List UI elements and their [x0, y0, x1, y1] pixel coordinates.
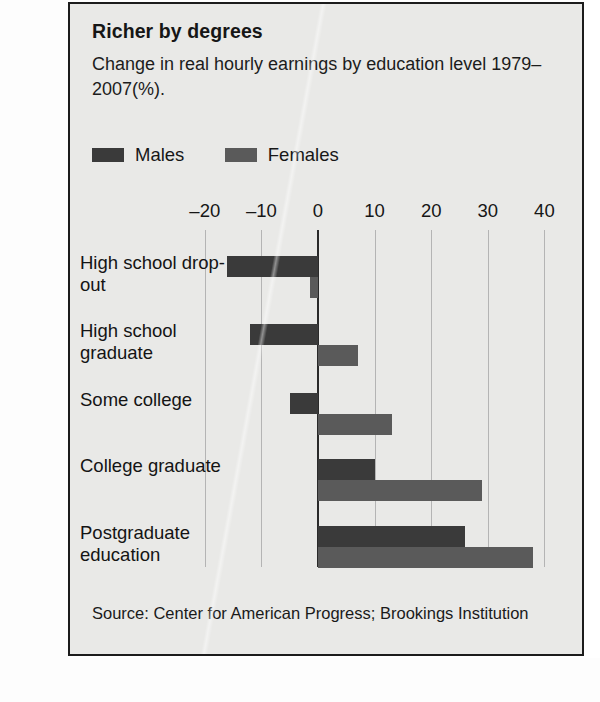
legend-swatch-males	[92, 148, 124, 162]
x-tick-label: 10	[364, 200, 385, 222]
x-tick-label: 30	[478, 200, 499, 222]
chart-source: Source: Center for American Progress; Br…	[92, 602, 542, 625]
category-label: College graduate	[80, 455, 230, 477]
bar-males	[250, 324, 318, 345]
bar-females	[318, 345, 358, 366]
category-label: High school graduate	[80, 320, 230, 364]
gridline	[488, 230, 489, 567]
x-tick-label: 0	[313, 200, 323, 222]
bar-males	[318, 526, 465, 547]
bar-males	[318, 459, 375, 480]
bar-females	[318, 547, 533, 568]
chart-subtitle: Change in real hourly earnings by educat…	[92, 52, 570, 102]
bar-females	[310, 277, 318, 298]
chart-title: Richer by degrees	[92, 20, 263, 43]
plot-area: –20–10010203040 High school drop-outHigh…	[70, 200, 582, 590]
category-label: High school drop-out	[80, 252, 230, 296]
gridline	[431, 230, 432, 567]
x-tick-label: 20	[421, 200, 442, 222]
legend-label-males: Males	[135, 144, 184, 166]
legend-label-females: Females	[268, 144, 339, 166]
page-margin-bottom	[0, 658, 600, 702]
bar-males	[227, 256, 318, 277]
legend-swatch-females	[225, 148, 257, 162]
bar-females	[318, 414, 392, 435]
legend-item-females: Females	[225, 144, 339, 166]
legend-item-males: Males	[92, 144, 184, 166]
chart-figure: Richer by degrees Change in real hourly …	[68, 2, 584, 656]
page-margin-left	[0, 0, 68, 702]
gridline	[375, 230, 376, 567]
category-label: Some college	[80, 389, 230, 411]
bar-males	[290, 393, 318, 414]
gridline	[261, 230, 262, 567]
gridline	[544, 230, 545, 567]
x-tick-label: 40	[534, 200, 555, 222]
category-label: Postgraduate education	[80, 522, 230, 566]
chart-legend: Males Females	[92, 144, 339, 168]
x-tick-label: –10	[246, 200, 277, 222]
bar-females	[318, 480, 482, 501]
x-tick-label: –20	[189, 200, 220, 222]
